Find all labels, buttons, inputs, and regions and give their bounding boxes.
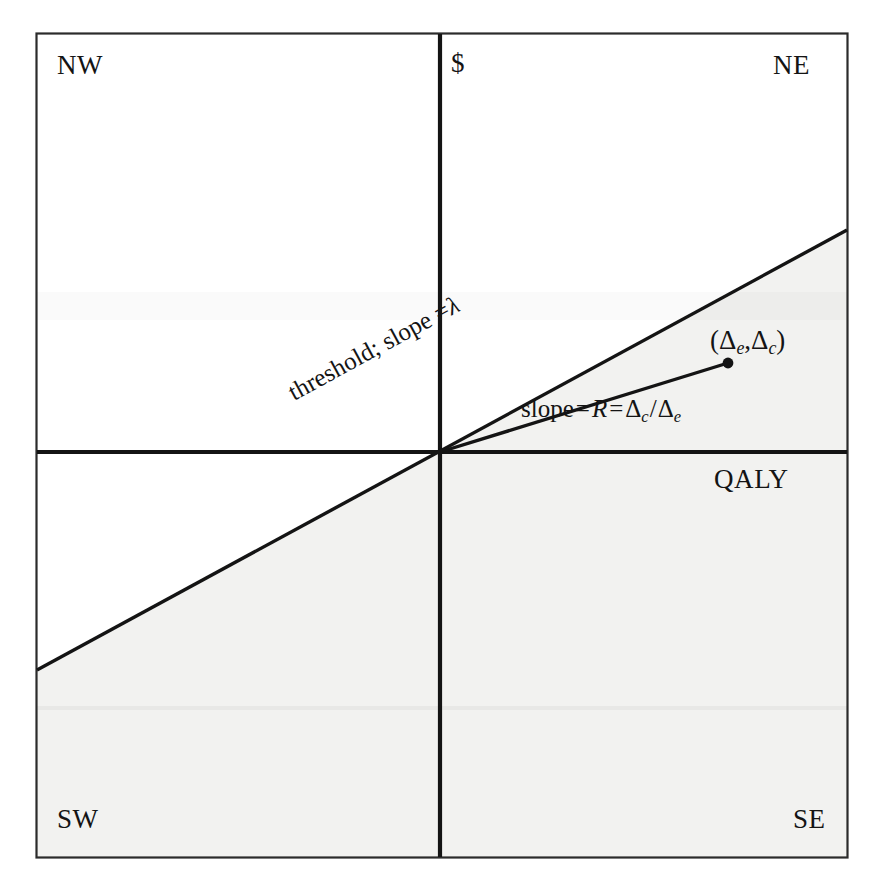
delta-effect-subscript: e	[674, 407, 681, 426]
delta-cost-symbol: Δ	[625, 395, 641, 422]
icer-slope-annotation: slope=R=Δc/Δe	[521, 396, 681, 425]
equals-sign-1: =	[574, 395, 592, 422]
delta-effect-symbol: Δ	[658, 395, 674, 422]
close-paren: )	[776, 325, 785, 355]
quadrant-label-se: SE	[793, 806, 826, 833]
equals-sign-2: =	[607, 395, 625, 422]
quadrant-label-sw: SW	[57, 806, 99, 833]
point-delta-c-symbol: Δ	[751, 325, 768, 355]
quadrant-label-ne: NE	[773, 52, 810, 79]
quadrant-label-nw: NW	[57, 52, 103, 79]
vertical-axis-label: $	[451, 50, 465, 77]
delta-cost-subscript: c	[641, 407, 648, 426]
slope-word: slope	[521, 395, 574, 422]
fraction-slash: /	[649, 395, 658, 422]
open-paren: (	[710, 325, 719, 355]
cost-effectiveness-plane-figure: NW NE SW SE $ QALY threshold; slope =λ s…	[0, 0, 882, 896]
incremental-point-annotation: (Δe,Δc)	[710, 327, 785, 358]
incremental-point-marker	[723, 358, 734, 369]
horizontal-axis-label: QALY	[714, 466, 789, 493]
point-delta-e-symbol: Δ	[719, 325, 736, 355]
plane-graphic	[0, 0, 882, 896]
r-variable: R	[592, 395, 607, 422]
